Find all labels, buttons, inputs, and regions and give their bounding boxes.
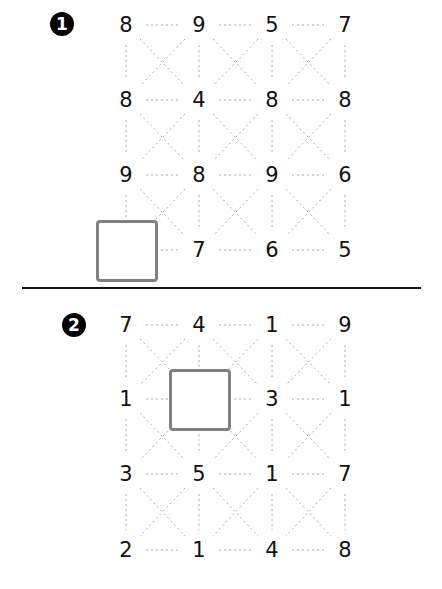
grid-number: 1	[257, 459, 287, 489]
grid-number: 1	[184, 535, 214, 565]
answer-blank-box[interactable]	[169, 369, 231, 431]
grid-number: 7	[330, 459, 360, 489]
grid-number: 5	[184, 459, 214, 489]
grid-number: 7	[111, 310, 141, 340]
grid-number: 1	[257, 310, 287, 340]
puzzle-2: 2 741913135172148	[0, 0, 442, 589]
puzzle-2-dotted-connections	[0, 0, 442, 589]
grid-number: 4	[257, 535, 287, 565]
grid-number: 1	[330, 384, 360, 414]
grid-number: 4	[184, 310, 214, 340]
grid-number: 1	[111, 384, 141, 414]
grid-number: 2	[111, 535, 141, 565]
grid-number: 3	[111, 459, 141, 489]
grid-number: 8	[330, 535, 360, 565]
grid-number: 3	[257, 384, 287, 414]
grid-number: 9	[330, 310, 360, 340]
